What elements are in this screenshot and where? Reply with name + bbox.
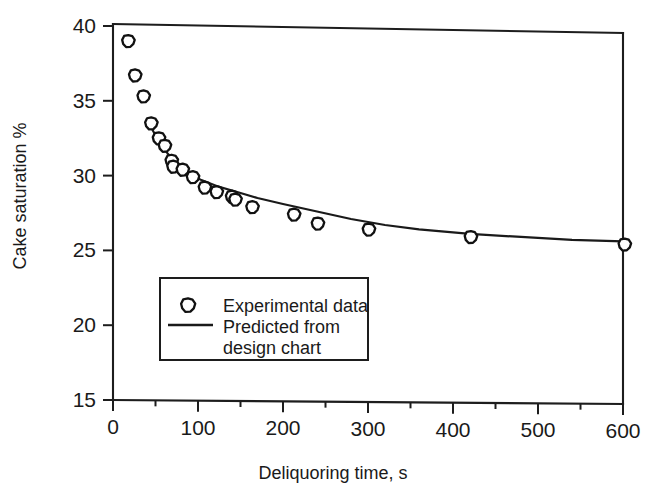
chart-legend: Experimental data Predicted from design …: [160, 278, 369, 360]
x-tick-label-0: 0: [107, 415, 119, 438]
data-point: [288, 209, 301, 221]
x-axis-ticks: [113, 400, 623, 415]
legend-label-predicted-line2: design chart: [223, 338, 321, 358]
x-axis-tick-labels: 0100200300400500600: [107, 415, 640, 442]
data-point: [619, 239, 632, 251]
legend-marker-shape: [181, 298, 195, 312]
y-tick-label-35: 35: [73, 89, 96, 112]
data-point: [363, 224, 376, 236]
data-point: [137, 90, 150, 102]
data-point: [312, 218, 325, 230]
y-tick-label-40: 40: [73, 14, 96, 37]
x-tick-label-200: 200: [265, 416, 300, 439]
y-axis-title: Cake saturation %: [10, 122, 30, 269]
legend-marker-open-circle-icon: [181, 298, 195, 312]
data-point: [465, 231, 478, 243]
data-point: [129, 69, 142, 81]
data-point: [187, 171, 200, 183]
data-point: [229, 194, 242, 206]
chart-svg: 152025303540 0100200300400500600 Deliquo…: [0, 0, 665, 500]
y-axis-tick-labels: 152025303540: [73, 14, 96, 411]
chart-figure: 152025303540 0100200300400500600 Deliquo…: [0, 0, 665, 500]
data-point: [246, 201, 259, 213]
frame-top-axis: [113, 24, 623, 33]
legend-label-predicted-line1: Predicted from: [223, 317, 340, 337]
data-point: [159, 140, 172, 152]
data-point: [122, 35, 135, 47]
x-tick-label-100: 100: [180, 416, 215, 439]
data-point: [211, 186, 224, 198]
x-tick-label-400: 400: [435, 418, 470, 441]
data-point: [145, 117, 158, 129]
predicted-series-line: [152, 129, 623, 241]
x-tick-label-600: 600: [605, 419, 640, 442]
y-tick-label-15: 15: [73, 388, 96, 411]
y-tick-label-30: 30: [73, 164, 96, 187]
y-tick-label-20: 20: [73, 313, 96, 336]
experimental-series-markers: [122, 35, 631, 250]
x-axis-title: Deliquoring time, s: [258, 463, 407, 483]
data-point: [199, 182, 212, 194]
x-tick-label-500: 500: [520, 418, 555, 441]
x-tick-label-300: 300: [350, 417, 385, 440]
y-axis-ticks: [103, 26, 113, 400]
y-tick-label-25: 25: [73, 238, 96, 261]
legend-label-experimental: Experimental data: [223, 296, 369, 316]
